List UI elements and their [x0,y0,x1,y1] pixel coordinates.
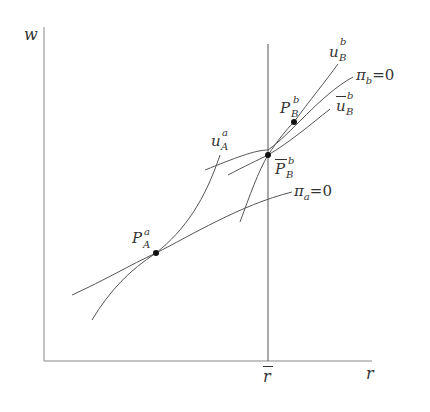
r-bar-label: r [263,369,271,385]
label-pi-b: πb=0 [356,68,394,83]
y-axis-label: w [24,27,38,43]
label-u-B-b: u b B [329,45,339,60]
label-pi-a: πa=0 [294,184,332,199]
curve-u-A-a [92,155,220,320]
point-P-B-b-bar [265,152,271,158]
point-P-B-b [291,119,297,125]
x-axis-label: r [366,366,374,382]
label-u-A-a: u a A [211,134,221,149]
diagram-canvas [0,0,430,412]
label-P-B-b-bar: P b B [275,162,285,177]
curve-pi-a [72,192,292,295]
point-P-A-a [153,250,159,256]
overline [275,159,287,160]
label-P-A-a: P a A [132,231,142,246]
curve-pi-b [205,77,353,170]
overline [336,96,346,97]
label-u-B-b-bar: u b B [336,99,346,114]
label-P-B-b: P b B [280,101,290,116]
